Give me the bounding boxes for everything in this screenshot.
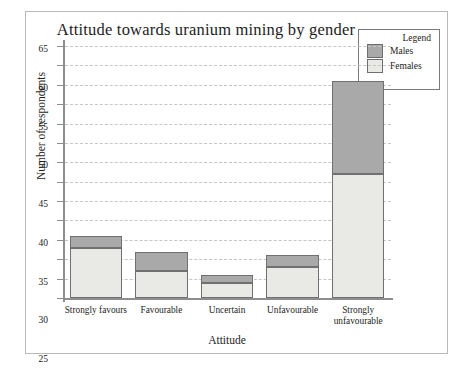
x-axis-line — [63, 298, 393, 300]
x-axis-tick-label: Uncertain — [209, 305, 246, 316]
bar-segment-females[interactable] — [135, 271, 187, 298]
gridline — [65, 46, 391, 47]
y-axis-tick: 15 — [57, 240, 64, 241]
bar-3[interactable] — [201, 275, 253, 298]
y-axis-tick-label: 25 — [39, 354, 49, 364]
x-axis-tick-label: Unfavourable — [267, 305, 318, 316]
bar-2[interactable] — [135, 251, 187, 298]
y-axis-tick: 40 — [57, 143, 64, 144]
y-axis-tick: 50 — [57, 104, 64, 105]
bar-segment-females[interactable] — [332, 174, 384, 298]
y-axis-tick: 45 — [57, 124, 64, 125]
x-axis-tick-label: Strongly unfavourable — [334, 305, 383, 327]
gridline — [65, 65, 391, 66]
x-axis-tick-label: Favourable — [140, 305, 182, 316]
legend-label-males: Males — [390, 46, 413, 56]
bar-segment-females[interactable] — [201, 283, 253, 299]
chart-title: Attitude towards uranium mining by gende… — [26, 20, 386, 40]
y-axis-tick: 60 — [57, 65, 64, 66]
legend-label-females: Females — [390, 61, 422, 71]
y-axis-tick: 65 — [57, 46, 64, 47]
y-axis-tick: 20 — [57, 220, 64, 221]
bar-4[interactable] — [266, 255, 318, 298]
x-axis-title: Attitude — [63, 334, 391, 346]
bar-segment-males[interactable] — [266, 255, 318, 267]
bar-segment-males[interactable] — [135, 252, 187, 271]
y-axis-title: Number of respondents — [35, 41, 47, 211]
y-axis-tick: 5 — [57, 279, 64, 280]
chart-frame: Attitude towards uranium mining by gende… — [25, 11, 448, 354]
bar-segment-males[interactable] — [332, 81, 384, 174]
bar-segment-males[interactable] — [201, 275, 253, 283]
bar-5[interactable] — [332, 81, 384, 298]
y-axis-tick: 10 — [57, 259, 64, 260]
y-axis-tick: 55 — [57, 85, 64, 86]
legend-title: Legend — [359, 30, 439, 43]
y-axis-tick: 30 — [57, 182, 64, 183]
y-axis-tick-label: 40 — [39, 238, 49, 248]
y-axis-tick-label: 30 — [39, 315, 49, 325]
y-axis-line — [63, 40, 65, 302]
y-axis-tick: 25 — [57, 201, 64, 202]
y-axis-tick: 0 — [57, 298, 64, 299]
y-axis-tick-label: 35 — [39, 277, 49, 287]
y-axis-tick: 35 — [57, 162, 64, 163]
bar-segment-females[interactable] — [266, 267, 318, 298]
x-axis-tick-label: Strongly favours — [65, 305, 127, 316]
plot-area: 05101520253035404550556065 Strongly favo… — [63, 44, 391, 300]
bar-segment-males[interactable] — [70, 236, 122, 248]
bar-segment-females[interactable] — [70, 248, 122, 298]
bar-1[interactable] — [70, 236, 122, 298]
